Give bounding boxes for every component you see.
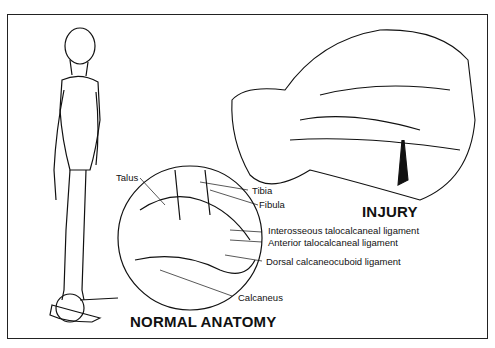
label-talus: Talus — [116, 172, 138, 183]
label-calcaneus: Calcaneus — [238, 292, 283, 303]
label-interosseous: Interosseous talocalcaneal ligament — [268, 225, 419, 236]
title-normal-anatomy: NORMAL ANATOMY — [130, 313, 276, 330]
label-anterior: Anterior talocalcaneal ligament — [268, 237, 398, 248]
title-injury: INJURY — [362, 203, 418, 220]
label-dorsal: Dorsal calcaneocuboid ligament — [266, 256, 401, 267]
skeleton-figure — [50, 28, 100, 322]
label-fibula: Fibula — [259, 199, 285, 210]
label-tibia: Tibia — [252, 185, 272, 196]
injury-foot-illustration — [232, 30, 475, 200]
leader-lines — [140, 178, 262, 296]
